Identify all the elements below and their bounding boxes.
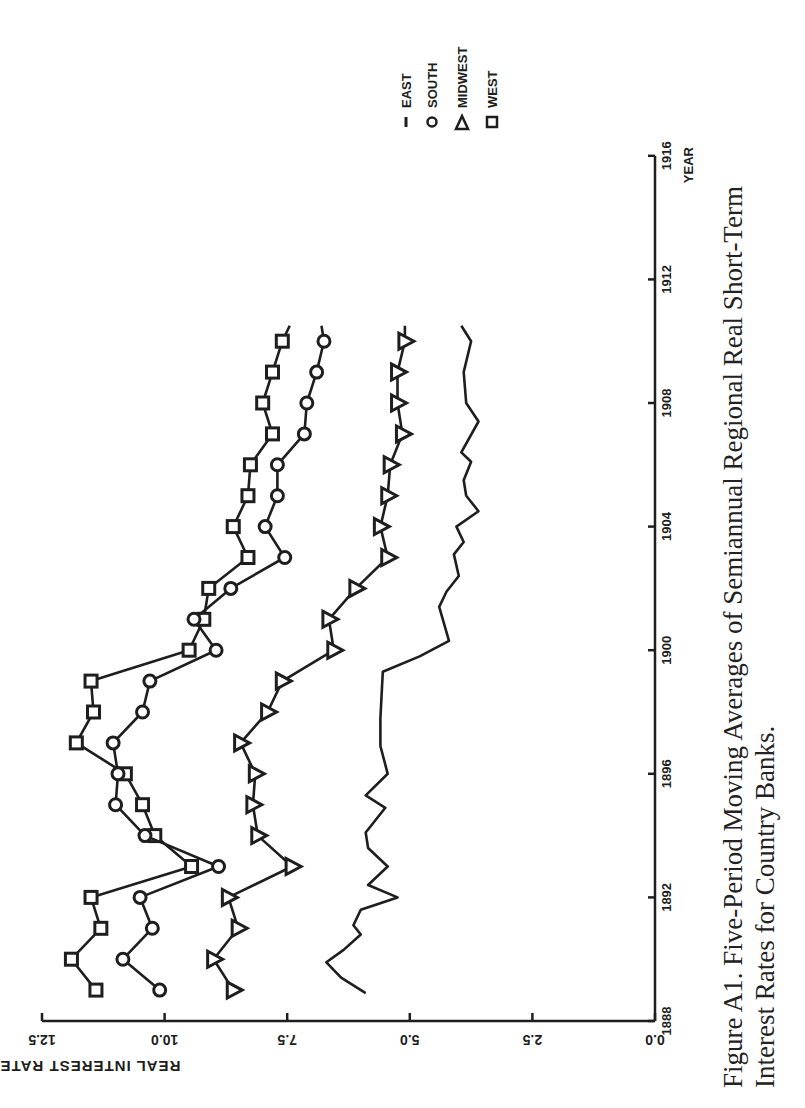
x-axis-title: YEAR: [681, 146, 696, 183]
x-tick-label: 1912: [659, 265, 674, 294]
figure-caption-line1: Figure A1. Five-Period Moving Averages o…: [718, 186, 749, 1088]
series-east: [326, 326, 478, 993]
interest-rate-chart: 188818921896190019041908191219160.02.55.…: [0, 0, 805, 1108]
triangle-icon: [456, 116, 468, 129]
y-tick-label: 10.0: [151, 1032, 178, 1048]
x-tick-label: 1916: [659, 141, 674, 170]
legend-item-midwest: MIDWEST: [455, 47, 470, 129]
y-tick-label: 0.0: [645, 1032, 665, 1048]
y-tick-label: 5.0: [400, 1032, 420, 1048]
legend-item-south: SOUTH: [425, 63, 440, 127]
legend-label: SOUTH: [425, 63, 440, 109]
x-tick-label: 1892: [659, 883, 674, 912]
series-south: [107, 326, 330, 996]
x-tick-label: 1908: [659, 389, 674, 418]
x-tick-label: 1896: [659, 759, 674, 788]
legend-label: EAST: [399, 73, 414, 108]
y-axis-title: REAL INTEREST RATE: [0, 1058, 180, 1075]
y-tick-label: 2.5: [522, 1032, 542, 1048]
x-tick-label: 1888: [659, 1007, 674, 1036]
square-icon: [487, 117, 497, 127]
circle-icon: [428, 118, 437, 127]
x-tick-label: 1900: [659, 636, 674, 665]
chart-series: [65, 326, 478, 998]
legend-label: MIDWEST: [455, 47, 470, 108]
chart-legend: EASTSOUTHMIDWESTWEST: [399, 47, 500, 129]
series-west: [65, 326, 289, 996]
figure-caption-line2: Interest Rates for Country Banks.: [750, 726, 781, 1088]
legend-item-west: WEST: [485, 70, 500, 127]
legend-label: WEST: [485, 70, 500, 108]
y-tick-label: 7.5: [277, 1032, 297, 1048]
x-tick-label: 1904: [659, 511, 674, 541]
legend-item-east: EAST: [399, 73, 414, 127]
series-midwest: [208, 326, 414, 998]
y-tick-label: 12.5: [28, 1032, 55, 1048]
